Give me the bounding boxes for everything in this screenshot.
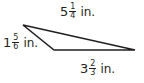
fraction: 2 3 [89, 60, 96, 77]
unit: in. [23, 37, 38, 49]
whole-number: 5 [60, 5, 68, 18]
fraction: 5 6 [12, 34, 19, 51]
whole-number: 1 [3, 36, 11, 49]
triangle-outline [23, 25, 135, 50]
denominator: 3 [90, 69, 95, 77]
unit: in. [80, 6, 95, 18]
denominator: 6 [13, 43, 18, 51]
side-label-bottom: 3 2 3 in. [80, 60, 115, 77]
denominator: 4 [70, 12, 75, 20]
side-label-left: 1 5 6 in. [3, 34, 38, 51]
fraction: 1 4 [69, 3, 76, 20]
unit: in. [100, 63, 115, 75]
side-label-top: 5 1 4 in. [60, 3, 95, 20]
whole-number: 3 [80, 62, 88, 75]
